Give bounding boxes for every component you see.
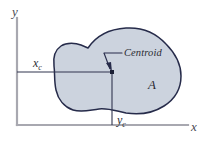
centroid-diagram-figure: y x xc yc A Centroid: [0, 0, 204, 144]
centroid-callout-label: Centroid: [124, 48, 162, 59]
x-axis-label: x: [191, 120, 197, 133]
centroid-point-marker: [110, 70, 114, 74]
area-label: A: [148, 78, 156, 91]
yc-subscript: c: [122, 120, 126, 129]
y-axis-label: y: [12, 5, 18, 18]
yc-coordinate-label: yc: [117, 114, 126, 126]
area-region-shape: [54, 28, 181, 114]
diagram-canvas: [0, 0, 204, 144]
xc-coordinate-label: xc: [33, 57, 42, 69]
xc-subscript: c: [38, 63, 42, 72]
